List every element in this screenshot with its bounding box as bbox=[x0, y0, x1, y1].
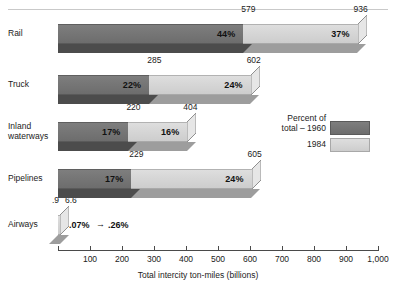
value-label-1960: 285 bbox=[147, 55, 161, 65]
x-axis-tick bbox=[282, 246, 283, 250]
bar-bottom-face bbox=[58, 142, 196, 151]
bar-row: 17%16% bbox=[58, 122, 196, 151]
bar-bottom-face-1984 bbox=[49, 235, 69, 244]
bar-row: 22%24% bbox=[58, 75, 260, 104]
category-label-truck: Truck bbox=[8, 80, 29, 90]
bar-segment-1960: 17% bbox=[58, 169, 131, 189]
x-axis: 1002003004005006007008009001,000 bbox=[0, 0, 396, 43]
category-label-pipelines: Pipelines bbox=[8, 174, 43, 184]
bar-segment-1960: 22% bbox=[58, 75, 149, 95]
x-axis-tick bbox=[314, 246, 315, 250]
bar-row bbox=[58, 215, 69, 244]
category-label-airways: Airways bbox=[8, 220, 38, 230]
x-axis-line bbox=[58, 250, 378, 251]
bar-bottom-face-1960 bbox=[58, 95, 158, 104]
category-label-line2: waterways bbox=[8, 132, 48, 142]
x-axis-tick bbox=[122, 246, 123, 250]
bar-bottom-face bbox=[58, 235, 69, 244]
category-label-inland-waterways: Inlandwaterways bbox=[8, 122, 48, 141]
legend-title-line2: total – 1960 bbox=[262, 123, 326, 133]
x-axis-end-tick bbox=[58, 246, 59, 251]
x-axis-tick-label: 1,000 bbox=[358, 254, 396, 264]
bar-percent-1960: 22% bbox=[123, 80, 141, 90]
bar-bottom-face-1960 bbox=[58, 142, 137, 151]
x-axis-tick bbox=[186, 246, 187, 250]
legend-swatch-1984 bbox=[330, 138, 370, 152]
bar-percent-1960: 17% bbox=[105, 174, 123, 184]
x-axis-tick bbox=[218, 246, 219, 250]
x-axis-tick bbox=[154, 246, 155, 250]
bar-segment-1984 bbox=[58, 215, 60, 235]
bar-segment-1984: 24% bbox=[149, 75, 250, 95]
category-label-line1: Pipelines bbox=[8, 174, 43, 184]
x-axis-tick bbox=[250, 246, 251, 250]
bar-percent-1984: 24% bbox=[225, 174, 243, 184]
bar-top-face bbox=[58, 160, 261, 169]
value-label-1984: 605 bbox=[248, 149, 262, 159]
bar-top-face bbox=[58, 113, 196, 122]
value-label-1984: 602 bbox=[247, 55, 261, 65]
bar-bottom-face-1984 bbox=[234, 44, 366, 53]
value-label-1960: 229 bbox=[129, 149, 143, 159]
value-label-1984: 936 bbox=[354, 4, 368, 14]
bar-row: 17%24% bbox=[58, 169, 261, 198]
chart-figure: Rail Truck Inlandwaterways Pipelines Air… bbox=[0, 0, 396, 293]
bar-bottom-face-1960 bbox=[58, 44, 252, 53]
legend: Percent of total – 1960 1984 bbox=[262, 113, 374, 157]
legend-label-1984: 1984 bbox=[282, 139, 326, 149]
legend-swatch-1960 bbox=[330, 121, 370, 135]
bar-bottom-face-1984 bbox=[140, 95, 259, 104]
x-axis-tick bbox=[378, 246, 379, 250]
value-label-1984: 404 bbox=[183, 102, 197, 112]
bar-percent-1960: 17% bbox=[102, 127, 120, 137]
bar-segment-1984: 24% bbox=[131, 169, 251, 189]
bar-bottom-face bbox=[58, 44, 367, 53]
bar-bottom-face-1984 bbox=[122, 189, 260, 198]
airways-arrow-icon: → bbox=[96, 219, 105, 229]
bar-segment-1960: 17% bbox=[58, 122, 128, 142]
legend-title: Percent of total – 1960 bbox=[262, 113, 326, 133]
bar-percent-1984: 16% bbox=[161, 127, 179, 137]
bar-end-cap bbox=[60, 206, 69, 235]
x-axis-tick bbox=[346, 246, 347, 250]
bar-bottom-face bbox=[58, 95, 260, 104]
bar-bottom-face-1960 bbox=[58, 189, 140, 198]
bar-segment-1984: 16% bbox=[128, 122, 187, 142]
value-label-1960: 579 bbox=[241, 4, 255, 14]
airways-1960-percent: .07% bbox=[69, 220, 90, 230]
legend-title-line1: Percent of bbox=[262, 113, 326, 123]
bar-bottom-face bbox=[58, 189, 261, 198]
category-label-line1: Airways bbox=[8, 220, 38, 230]
x-axis-tick bbox=[90, 246, 91, 250]
category-label-line1: Truck bbox=[8, 80, 29, 90]
bar-top-face bbox=[58, 66, 260, 75]
bar-percent-1984: 24% bbox=[224, 80, 242, 90]
x-axis-title: Total intercity ton-miles (billions) bbox=[0, 270, 396, 280]
airways-1984-percent: .26% bbox=[108, 220, 129, 230]
